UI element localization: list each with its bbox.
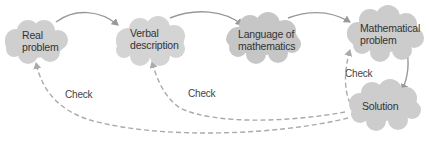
node-real-problem-line1: Real — [22, 29, 59, 41]
node-verbal-description-line1: Verbal — [130, 27, 179, 39]
node-language-of-mathematics-line2: mathematics — [238, 40, 295, 52]
node-verbal-description-line2: description — [130, 39, 179, 51]
modeling-process-diagram: Real problem Verbal description Language… — [0, 0, 429, 146]
check-label-mathematical: Check — [345, 68, 372, 79]
check-arrow-solution-to-verbal — [152, 62, 345, 120]
node-solution-label: Solution — [362, 100, 398, 112]
check-label-real: Check — [65, 89, 92, 100]
node-mathematical-problem-line1: Mathematical — [360, 22, 420, 34]
node-mathematical-problem-line2: problem — [360, 34, 420, 46]
flow-arrow-language-to-mathematical — [288, 12, 350, 22]
check-label-verbal: Check — [188, 88, 215, 99]
node-language-of-mathematics-line1: Language of — [238, 28, 295, 40]
node-real-problem-line2: problem — [22, 41, 59, 53]
node-language-of-mathematics-label: Language of mathematics — [238, 28, 295, 52]
node-real-problem-label: Real problem — [22, 29, 59, 53]
node-mathematical-problem-label: Mathematical problem — [360, 22, 420, 46]
flow-arrow-verbal-to-language — [170, 12, 242, 25]
node-solution-line1: Solution — [362, 100, 398, 112]
node-verbal-description-label: Verbal description — [130, 27, 179, 51]
flow-arrow-real-to-verbal — [56, 13, 118, 25]
